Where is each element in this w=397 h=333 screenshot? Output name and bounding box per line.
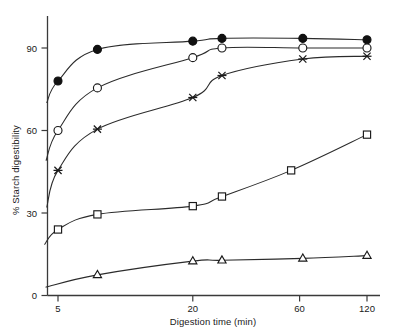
data-point-open-square xyxy=(218,193,225,200)
data-point-filled-circle xyxy=(93,45,101,53)
data-point-open-square xyxy=(54,226,61,233)
data-point-open-square xyxy=(363,131,370,138)
x-tick-label: 60 xyxy=(294,303,305,314)
y-tick-label: 90 xyxy=(26,43,37,54)
x-axis-title: Digestion time (min) xyxy=(170,316,256,327)
data-point-filled-circle xyxy=(54,77,62,85)
data-point-open-circle xyxy=(299,44,307,52)
x-tick-label: 5 xyxy=(55,303,60,314)
data-point-open-circle xyxy=(54,127,62,135)
starch-digestibility-chart: 0306090 52060120 Digestion time (min) % … xyxy=(0,0,397,333)
data-point-open-circle xyxy=(218,44,226,52)
x-tick-label: 120 xyxy=(359,303,375,314)
y-tick-label: 60 xyxy=(26,125,37,136)
y-tick-label: 0 xyxy=(32,290,37,301)
x-tick-label: 20 xyxy=(187,303,198,314)
data-point-open-square xyxy=(94,211,101,218)
data-point-open-circle xyxy=(93,84,101,92)
data-point-filled-circle xyxy=(189,37,197,45)
y-axis-title: % Starch digestibility xyxy=(10,125,21,215)
data-point-open-square xyxy=(288,167,295,174)
data-point-filled-circle xyxy=(299,34,307,42)
data-point-filled-circle xyxy=(363,36,371,44)
y-tick-label: 30 xyxy=(26,208,37,219)
data-point-filled-circle xyxy=(218,34,226,42)
data-point-open-circle xyxy=(189,54,197,62)
data-point-open-circle xyxy=(363,44,371,52)
data-point-open-square xyxy=(189,203,196,210)
